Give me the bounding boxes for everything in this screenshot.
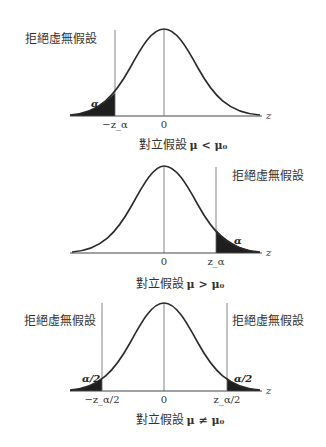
reject-null-label-left: 拒絕虛無假設 xyxy=(24,315,96,327)
alpha-label: α xyxy=(234,236,242,246)
caption-text: 對立假設 xyxy=(136,277,184,291)
reject-null-label: 拒絕虛無假設 xyxy=(232,170,304,182)
hypothesis-test-diagrams xyxy=(0,0,326,447)
caption-math: μ > μ₀ xyxy=(187,278,225,291)
tick-critical-left: −z_α/2 xyxy=(84,395,119,405)
tick-zero: 0 xyxy=(161,120,167,130)
alpha-label: α xyxy=(91,99,99,109)
tick-critical: z_α xyxy=(207,257,224,267)
caption-two-tailed: 對立假設μ ≠ μ₀ xyxy=(136,414,225,426)
tick-zero: 0 xyxy=(161,395,167,405)
caption-left-tailed: 對立假設μ < μ₀ xyxy=(139,139,228,151)
tick-critical-right: z_α/2 xyxy=(214,395,241,405)
axis-label-z: z xyxy=(266,386,271,396)
axis-label-z: z xyxy=(266,248,271,258)
caption-text: 對立假設 xyxy=(136,413,184,427)
tick-zero: 0 xyxy=(161,257,167,267)
alpha-half-label-left: α/2 xyxy=(82,374,100,384)
caption-math: μ < μ₀ xyxy=(190,139,228,152)
tick-critical: −z_α xyxy=(102,120,127,130)
caption-right-tailed: 對立假設μ > μ₀ xyxy=(136,278,225,290)
reject-null-label-right: 拒絕虛無假設 xyxy=(232,315,304,327)
alpha-half-label-right: α/2 xyxy=(234,374,252,384)
reject-null-label: 拒絕虛無假設 xyxy=(25,33,97,45)
axis-label-z: z xyxy=(266,111,271,121)
caption-math: μ ≠ μ₀ xyxy=(187,414,225,427)
caption-text: 對立假設 xyxy=(139,138,187,152)
